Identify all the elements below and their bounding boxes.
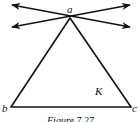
figure-caption: Figure 7.27 — [46, 115, 95, 122]
triangle-abc — [11, 18, 131, 107]
triangle-figure: a b c K Figure 7.27 — [0, 0, 140, 122]
label-a: a — [67, 3, 73, 15]
label-b: b — [2, 102, 8, 114]
label-region-k: K — [94, 85, 103, 97]
label-c: c — [132, 102, 137, 114]
